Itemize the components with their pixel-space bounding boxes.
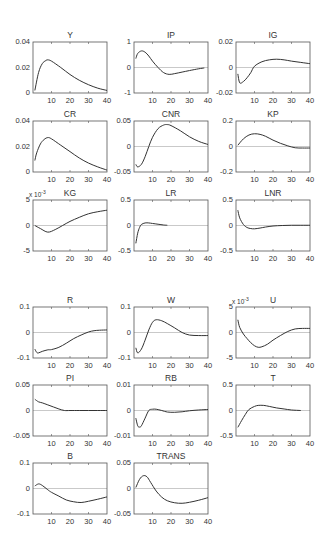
x-tick-label: 20 — [60, 361, 80, 370]
y-tick-label: -0.05 — [101, 509, 131, 518]
response-line — [136, 320, 208, 353]
y-tick-label: 0.5 — [203, 195, 233, 204]
x-tick-label: 20 — [60, 175, 80, 184]
x-tick-label: 30 — [79, 439, 99, 448]
y-tick-label: 0 — [0, 406, 30, 415]
plot-area — [236, 42, 310, 93]
y-tick-label: 0 — [203, 406, 233, 415]
plot-area — [33, 42, 107, 93]
x-tick-label: 40 — [97, 254, 117, 263]
x-tick-label: 30 — [180, 439, 200, 448]
response-line — [136, 476, 208, 504]
x-tick-label: 10 — [42, 517, 62, 526]
y-tick-label: 0 — [203, 328, 233, 337]
y-tick-label: 0 — [203, 221, 233, 230]
x-tick-label: 10 — [143, 254, 163, 263]
response-line — [238, 405, 301, 427]
response-line — [35, 484, 107, 503]
x-tick-label: 10 — [143, 439, 163, 448]
y-tick-label: 0.05 — [101, 116, 131, 125]
x-tick-label: 30 — [282, 96, 302, 105]
response-line — [35, 399, 107, 410]
x-tick-label: 40 — [300, 439, 320, 448]
y-tick-label: -0.5 — [101, 246, 131, 255]
x-tick-label: 20 — [263, 361, 283, 370]
y-tick-label: 0.5 — [101, 195, 131, 204]
x-tick-label: 10 — [42, 254, 62, 263]
exponent-label: x 10-3 — [232, 296, 249, 305]
plot-area — [134, 42, 208, 93]
x-tick-label: 20 — [161, 439, 181, 448]
x-tick-label: 30 — [180, 517, 200, 526]
x-tick-label: 40 — [97, 439, 117, 448]
panel-cnr: CNR0.050-0.0510203040 — [134, 121, 208, 172]
x-tick-label: 20 — [60, 517, 80, 526]
x-tick-label: 20 — [60, 96, 80, 105]
plot-area — [236, 200, 310, 251]
panel-kg: KGx 10-350-510203040 — [33, 200, 107, 251]
y-tick-label: 0.1 — [0, 302, 30, 311]
plot-area — [134, 121, 208, 172]
y-tick-label: 0 — [101, 63, 131, 72]
x-tick-label: 30 — [282, 254, 302, 263]
x-tick-label: 10 — [42, 361, 62, 370]
y-tick-label: -0.1 — [0, 353, 30, 362]
x-tick-label: 10 — [42, 439, 62, 448]
response-line — [238, 59, 310, 83]
y-tick-label: 0 — [101, 484, 131, 493]
panel-ig: IG0.020-0.0210203040 — [236, 42, 310, 93]
y-tick-label: 0.1 — [101, 302, 131, 311]
plot-area — [236, 121, 310, 172]
x-tick-label: 30 — [180, 254, 200, 263]
y-tick-label: -0.1 — [0, 509, 30, 518]
panel-title: TRANS — [131, 451, 211, 461]
x-tick-label: 40 — [300, 175, 320, 184]
y-tick-label: 0 — [0, 328, 30, 337]
x-tick-label: 10 — [245, 96, 265, 105]
x-tick-label: 30 — [180, 96, 200, 105]
x-tick-label: 20 — [263, 96, 283, 105]
plot-area — [134, 200, 208, 251]
panel-title: T — [233, 373, 313, 383]
y-tick-label: 0.02 — [0, 63, 30, 72]
y-tick-label: 0.2 — [203, 116, 233, 125]
y-tick-label: 0 — [101, 221, 131, 230]
plot-area — [134, 307, 208, 358]
panel-lnr: LNR0.50-0.510203040 — [236, 200, 310, 251]
response-line — [238, 210, 310, 229]
x-tick-label: 30 — [79, 517, 99, 526]
panel-title: LR — [131, 188, 211, 198]
panel-trans: TRANS0.050-0.0510203040 — [134, 463, 208, 514]
x-tick-label: 40 — [198, 96, 218, 105]
x-tick-label: 40 — [97, 361, 117, 370]
y-tick-label: 0.1 — [0, 458, 30, 467]
response-line — [238, 134, 310, 148]
x-tick-label: 10 — [245, 439, 265, 448]
panel-title: R — [30, 295, 110, 305]
x-tick-label: 20 — [60, 439, 80, 448]
y-tick-label: 0 — [0, 221, 30, 230]
panel-kp: KP0.20-0.210203040 — [236, 121, 310, 172]
y-tick-label: 0 — [101, 142, 131, 151]
plot-area — [33, 200, 107, 251]
x-tick-label: 10 — [42, 96, 62, 105]
panel-title: Y — [30, 30, 110, 40]
y-tick-label: -5 — [0, 246, 30, 255]
exponent-label: x 10-3 — [29, 189, 46, 198]
x-tick-label: 20 — [161, 517, 181, 526]
plot-area — [236, 385, 310, 436]
response-line — [35, 138, 107, 171]
y-tick-label: 0 — [0, 167, 30, 176]
y-tick-label: -0.5 — [203, 246, 233, 255]
y-tick-label: -0.01 — [101, 431, 131, 440]
y-tick-label: 0 — [101, 328, 131, 337]
y-tick-label: 1 — [101, 37, 131, 46]
x-tick-label: 10 — [143, 175, 163, 184]
response-line — [136, 409, 208, 427]
panel-r: R0.10-0.110203040 — [33, 307, 107, 358]
y-tick-label: 0.04 — [0, 37, 30, 46]
x-tick-label: 10 — [42, 175, 62, 184]
response-line — [238, 320, 310, 348]
y-tick-label: 0 — [0, 88, 30, 97]
x-tick-label: 20 — [161, 96, 181, 105]
